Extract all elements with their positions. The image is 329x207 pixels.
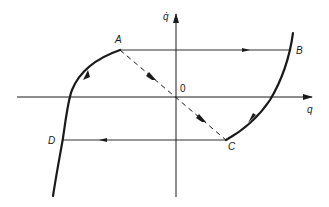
arrow-right-icon [242,48,250,52]
arrow-left-icon [99,138,107,142]
left-trajectory-curve [53,50,120,196]
dashed-line-a-to-c [120,50,226,140]
label-point-c: C [228,141,236,152]
arrow-down-right-icon [146,72,156,80]
phase-plane-diagram: A B C D 0 q q̇ [0,0,329,207]
label-q-axis: q [307,104,313,115]
label-q-dot-axis: q̇ [163,11,169,22]
label-point-b: B [296,45,303,56]
label-point-a: A [114,34,122,45]
label-point-d: D [48,135,55,146]
line-a-to-b [120,48,291,52]
line-c-to-d [62,138,226,142]
label-origin: 0 [180,83,186,94]
right-trajectory-curve [226,33,293,140]
